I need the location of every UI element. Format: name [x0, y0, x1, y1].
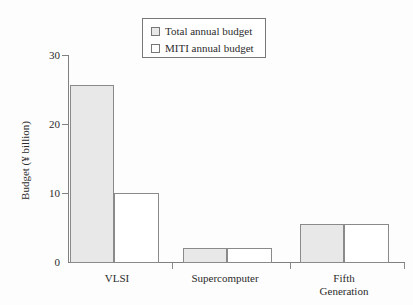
y-tick-label-0: 0: [26, 257, 60, 268]
y-tick-30: [62, 55, 69, 56]
legend-item-miti-annual-budget: MITI annual budget: [151, 40, 259, 56]
x-tick-2: [290, 263, 291, 269]
y-tick-label-10: 10: [26, 188, 60, 199]
x-axis-label-vlsi: VLSI: [74, 272, 160, 285]
x-axis-label-supercomputer: Supercomputer: [175, 272, 275, 285]
y-axis-line: [68, 55, 69, 263]
legend-swatch-total-icon: [151, 27, 160, 36]
x-tick-1: [172, 263, 173, 269]
bar-supercomputer-total: [183, 248, 227, 263]
legend-swatch-miti-icon: [151, 44, 160, 53]
x-tick-3: [404, 263, 405, 269]
x-axis-label-fifth-generation: Fifth Generation: [296, 272, 392, 298]
y-tick-label-20: 20: [26, 119, 60, 130]
chart-legend: Total annual budget MITI annual budget: [142, 18, 266, 58]
y-tick-label-30: 30: [26, 50, 60, 61]
bar-vlsi-total: [70, 85, 114, 263]
legend-label-miti: MITI annual budget: [165, 42, 254, 54]
legend-label-total: Total annual budget: [165, 25, 252, 37]
y-axis-title: Budget (¥ billion): [20, 91, 31, 231]
bar-vlsi-miti: [114, 193, 159, 263]
y-tick-20: [62, 124, 69, 125]
legend-item-total-annual-budget: Total annual budget: [151, 23, 259, 39]
bar-fifth-generation-total: [300, 224, 344, 263]
y-tick-10: [62, 193, 69, 194]
bar-supercomputer-miti: [227, 248, 272, 263]
bar-chart: Total annual budget MITI annual budget B…: [0, 0, 413, 305]
bar-fifth-generation-miti: [344, 224, 389, 263]
